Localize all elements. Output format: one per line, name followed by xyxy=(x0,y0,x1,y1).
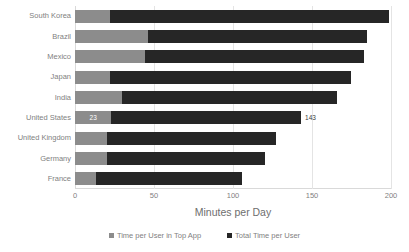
bar-segment-time-in-top-app xyxy=(75,30,148,43)
bar-row: 23143 xyxy=(75,111,301,124)
legend-item-2[interactable]: Total Time per User xyxy=(227,232,300,240)
chart-legend: Time per User in Top AppTotal Time per U… xyxy=(0,232,409,240)
bar-segment-total-time xyxy=(96,172,243,185)
bar-value-label: 143 xyxy=(305,115,316,122)
bar-segment-time-in-top-app xyxy=(75,152,107,165)
legend-label: Total Time per User xyxy=(235,232,300,240)
bar-segment-total-time xyxy=(110,10,390,23)
bar-row xyxy=(75,152,265,165)
legend-swatch-icon xyxy=(109,233,114,238)
bar-row xyxy=(75,10,389,23)
y-axis-label-brazil: Brazil xyxy=(1,33,71,41)
y-axis-label-united-kingdom: United Kingdom xyxy=(1,134,71,142)
bar-row xyxy=(75,30,367,43)
bar-segment-total-time xyxy=(107,152,265,165)
bar-segment-total-time xyxy=(148,30,368,43)
bar-row xyxy=(75,132,276,145)
bar-segment-total-time xyxy=(110,71,352,84)
gridline-200 xyxy=(391,6,392,189)
x-axis-title: Minutes per Day xyxy=(75,206,391,219)
bar-value-label: 23 xyxy=(89,115,96,122)
bar-segment-time-in-top-app xyxy=(75,10,110,23)
x-axis-tick-200: 200 xyxy=(385,192,398,200)
bar-row xyxy=(75,172,242,185)
y-axis-label-france: France xyxy=(1,175,71,183)
x-axis-tick-50: 50 xyxy=(150,192,158,200)
y-axis-label-south-korea: South Korea xyxy=(1,12,71,20)
bar-row xyxy=(75,91,337,104)
plot-area: 23143 xyxy=(75,6,391,189)
y-axis-category-labels: South KoreaBrazilMexicoJapanIndiaUnited … xyxy=(0,6,71,189)
bar-row xyxy=(75,71,351,84)
bar-segment-total-time xyxy=(107,132,276,145)
bar-segment-total-time: 143 xyxy=(111,111,301,124)
y-axis-label-germany: Germany xyxy=(1,155,71,163)
bar-segment-time-in-top-app xyxy=(75,91,122,104)
y-axis-label-united-states: United States xyxy=(1,114,71,122)
horizontal-stacked-bar-chart: South KoreaBrazilMexicoJapanIndiaUnited … xyxy=(0,0,409,252)
y-axis-label-india: India xyxy=(1,94,71,102)
bar-segment-time-in-top-app xyxy=(75,71,110,84)
y-axis-label-japan: Japan xyxy=(1,73,71,81)
legend-label: Time per User in Top App xyxy=(117,232,201,240)
bar-segment-total-time xyxy=(145,50,365,63)
bar-row xyxy=(75,50,364,63)
x-axis-tick-150: 150 xyxy=(306,192,319,200)
legend-swatch-icon xyxy=(227,233,232,238)
bar-segment-time-in-top-app xyxy=(75,132,107,145)
y-axis-label-mexico: Mexico xyxy=(1,53,71,61)
bar-segment-time-in-top-app xyxy=(75,50,145,63)
x-axis-tick-0: 0 xyxy=(73,192,77,200)
bar-segment-total-time xyxy=(122,91,337,104)
bar-segment-time-in-top-app: 23 xyxy=(75,111,111,124)
x-axis-tick-100: 100 xyxy=(227,192,240,200)
x-axis-tick-labels: 050100150200 xyxy=(75,192,391,204)
bar-segment-time-in-top-app xyxy=(75,172,96,185)
legend-item-1[interactable]: Time per User in Top App xyxy=(109,232,201,240)
